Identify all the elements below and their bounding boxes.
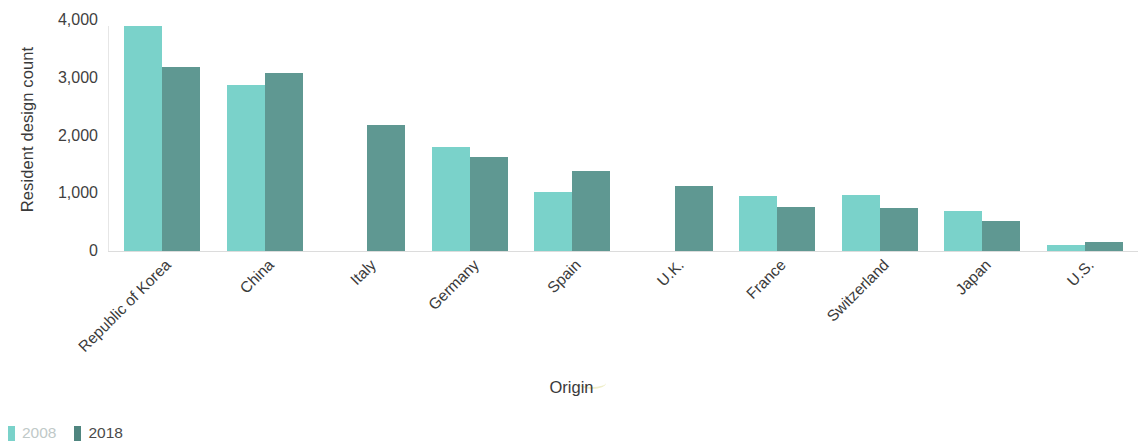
- x-tick-labels: Republic of KoreaChinaItalyGermanySpainU…: [108, 256, 1138, 356]
- bar-chart: Resident design count 01,0002,0003,0004,…: [0, 0, 1143, 448]
- bar-group: [329, 14, 405, 252]
- bar-2018-france[interactable]: [777, 207, 815, 251]
- bar-2018-japan[interactable]: [982, 221, 1020, 251]
- bars-layer: [108, 14, 1138, 252]
- bar-2008-republic-of-korea[interactable]: [124, 26, 162, 251]
- plot-area: [108, 14, 1138, 252]
- bar-2008-u-s-[interactable]: [1047, 245, 1085, 251]
- bar-2018-switzerland[interactable]: [880, 208, 918, 251]
- bar-2018-germany[interactable]: [470, 157, 508, 251]
- legend-item-2008[interactable]: 2008: [8, 424, 56, 442]
- bar-2018-u-k-[interactable]: [675, 186, 713, 251]
- y-tick-label: 2,000: [24, 127, 98, 145]
- bar-2008-switzerland[interactable]: [842, 195, 880, 251]
- legend-item-2018[interactable]: 2018: [74, 424, 122, 442]
- bar-2008-japan[interactable]: [944, 211, 982, 251]
- bar-group: [944, 14, 1020, 252]
- legend: 2008 2018: [8, 424, 123, 442]
- bar-2018-italy[interactable]: [367, 125, 405, 251]
- bar-group: [739, 14, 815, 252]
- bar-group: [432, 14, 508, 252]
- bar-2008-germany[interactable]: [432, 147, 470, 251]
- y-tick-label: 1,000: [24, 184, 98, 202]
- bar-2018-u-s-[interactable]: [1085, 242, 1123, 251]
- bar-group: [637, 14, 713, 252]
- bar-2008-france[interactable]: [739, 196, 777, 251]
- bar-2008-china[interactable]: [227, 85, 265, 251]
- y-tick-label: 4,000: [24, 11, 98, 29]
- legend-label-2008: 2008: [22, 424, 56, 442]
- bar-2018-china[interactable]: [265, 73, 303, 251]
- bar-group: [534, 14, 610, 252]
- bar-group: [124, 14, 200, 252]
- bar-group: [227, 14, 303, 252]
- bar-2008-spain[interactable]: [534, 192, 572, 251]
- bar-2018-republic-of-korea[interactable]: [162, 67, 200, 251]
- y-tick-label: 3,000: [24, 69, 98, 87]
- bar-group: [1047, 14, 1123, 252]
- legend-swatch-2008-icon: [8, 426, 15, 441]
- legend-label-2018: 2018: [88, 424, 122, 442]
- y-tick-label: 0: [24, 242, 98, 260]
- bar-2018-spain[interactable]: [572, 171, 610, 251]
- x-axis-title: Origin: [0, 378, 1143, 397]
- legend-swatch-2018-icon: [74, 426, 81, 441]
- bar-group: [842, 14, 918, 252]
